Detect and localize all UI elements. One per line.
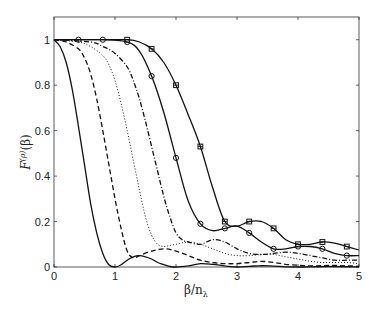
x-axis-label: β/nλ — [184, 283, 208, 299]
x-tick-label: 0 — [51, 270, 57, 282]
y-tick-label: 0 — [44, 261, 50, 273]
y-tick-label: 1 — [44, 34, 50, 46]
x-tick-label: 2 — [173, 270, 179, 282]
y-tick-label: 0.6 — [35, 125, 50, 137]
series-solid-square — [54, 40, 359, 250]
data-series — [54, 40, 359, 268]
x-tick-label: 5 — [356, 270, 362, 282]
series-dashed — [54, 40, 359, 267]
series-solid-circle — [54, 40, 359, 256]
chart: 01234500.20.40.60.81 β/nλ F(ρ)(β) — [0, 0, 378, 309]
x-tick-label: 3 — [234, 270, 240, 282]
series-dotted — [54, 40, 359, 264]
series-solid — [54, 40, 359, 267]
y-tick-label: 0.8 — [35, 79, 50, 91]
series-dash-dot — [54, 40, 359, 261]
y-tick-label: 0.4 — [35, 170, 50, 182]
y-axis-label: F(ρ)(β) — [18, 134, 33, 171]
y-tick-label: 0.2 — [35, 216, 50, 228]
plot-frame — [54, 17, 359, 267]
x-tick-label: 4 — [295, 270, 301, 282]
x-tick-label: 1 — [112, 270, 118, 282]
axis-ticks — [54, 17, 359, 267]
data-markers — [76, 37, 350, 258]
